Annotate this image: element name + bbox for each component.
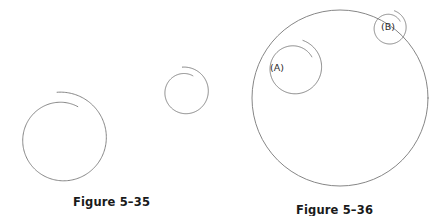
figure-5-35-panel: Figure 5–35: [0, 0, 223, 216]
figure-5-35-caption: Figure 5–35: [0, 195, 223, 209]
figure-5-36-caption: Figure 5–36: [223, 203, 446, 216]
figure-page: Figure 5–35 (A) (B) Figure 5–36: [0, 0, 446, 216]
small-spiral: [165, 67, 208, 114]
figure-5-36-panel: [223, 0, 446, 216]
figure-5-35-drawing: [0, 0, 223, 216]
spiral-label-b: (B): [381, 21, 395, 32]
large-spiral: [23, 92, 107, 181]
spiral-label-a: (A): [270, 62, 284, 73]
